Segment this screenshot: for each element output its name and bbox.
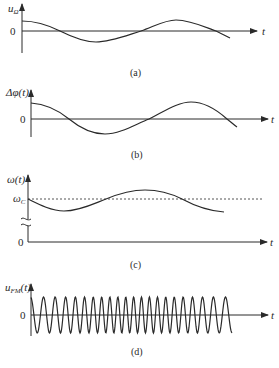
x-axis-label: t [271,113,275,125]
phase-deviation-curve [31,102,237,134]
caption-c: (c) [130,259,141,271]
y-axis-label: ω(t) [7,173,25,186]
x-axis-label: t [271,309,275,321]
caption-a: (a) [130,67,141,79]
origin-label: 0 [10,25,16,37]
axis-break-mark-bottom [21,224,31,226]
origin-label: 0 [18,236,24,248]
caption-b: (b) [131,149,143,161]
instantaneous-frequency-curve [28,190,224,212]
panel-a: uΩ 0 t (a) [8,2,266,79]
origin-label: 0 [20,113,26,125]
y-axis-label: uFM(t) [5,281,31,295]
panel-c: ω(t) ωC 0 t (c) [7,173,274,271]
axis-break-mark-top [21,218,31,220]
y-axis-label: uΩ [8,2,19,16]
y-axis-label: Δφ(t) [5,86,29,99]
phase-modulation-figure: uΩ 0 t (a) Δφ(t) 0 t (b) ω(t) ωC 0 t (c)… [0,0,279,368]
x-axis-label: t [270,236,274,248]
panel-b: Δφ(t) 0 t (b) [5,86,275,161]
caption-d: (d) [131,346,143,358]
carrier-frequency-label: ωC [13,192,26,206]
origin-label: 0 [20,309,26,321]
x-axis-label: t [262,25,266,37]
panel-d: uFM(t) 0 t (d) [5,281,275,358]
